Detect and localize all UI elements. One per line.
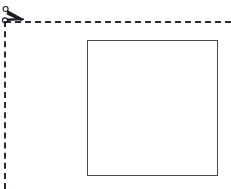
- vertical-cut-line: [4, 21, 6, 189]
- scissors-icon: [0, 4, 28, 28]
- rectangle: [87, 40, 218, 176]
- diagram-canvas: [0, 0, 231, 189]
- horizontal-cut-line: [5, 21, 231, 23]
